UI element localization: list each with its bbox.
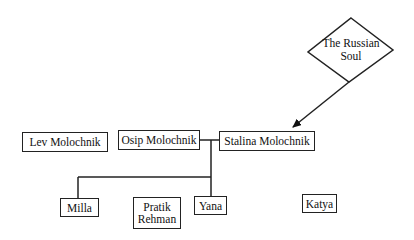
node-pratik-rehman: Pratik Rehman xyxy=(133,197,181,229)
node-katya: Katya xyxy=(302,194,337,213)
concept-label: The Russian Soul xyxy=(318,37,384,63)
node-lev-molochnik: Lev Molochnik xyxy=(22,132,108,152)
node-stalina-molochnik: Stalina Molochnik xyxy=(219,131,315,151)
diagram-canvas: The Russian Soul Lev Molochnik Osip Molo… xyxy=(0,0,414,240)
node-yana: Yana xyxy=(194,196,227,215)
concept-arrow xyxy=(293,82,349,127)
node-milla: Milla xyxy=(60,198,99,217)
node-osip-molochnik: Osip Molochnik xyxy=(118,130,200,150)
